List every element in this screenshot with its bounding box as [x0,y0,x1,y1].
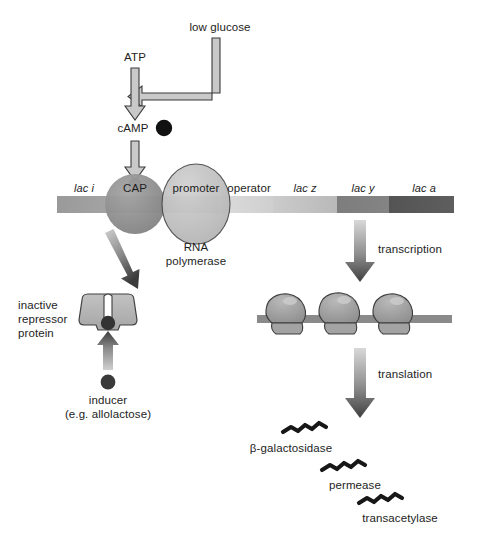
ribosome [266,294,306,334]
low-glucose-arrow [128,38,220,107]
dna-segment-lac-y [337,196,389,213]
squiggle-beta-galactosidase [283,423,326,432]
rna-polymerase-label-line1: RNA [184,241,209,255]
operator-label: operator [227,182,271,196]
repressor-label-line3: protein [18,327,54,341]
inducer-label-line2: (e.g. allolactose) [65,408,151,422]
dna-segment-lac-z [273,196,337,213]
translation-arrow [345,348,375,418]
cap-label: CAP [123,182,147,196]
gene-lac-z-label: lac z [293,182,316,196]
diagram-canvas [0,0,480,536]
dna-segment-lac-a [389,196,454,213]
atp-label: ATP [124,51,146,65]
gene-lac-i-label: lac i [74,182,94,196]
translation-label: translation [378,368,432,382]
repressor-label-line1: inactive [18,299,58,313]
inducer-label-line1: inducer [89,394,127,408]
repressor-label-line2: repressor [18,313,67,327]
gene-lac-y-label: lac y [351,182,374,196]
camp-label: cAMP [117,122,148,136]
product-transacetylase-label: transacetylase [362,512,438,526]
ribosome [373,294,413,334]
gene-lac-a-label: lac a [412,182,436,196]
mrna-with-ribosomes [257,293,452,334]
product-beta-galactosidase-label: β-galactosidase [250,442,332,456]
rna-polymerase-label-line2: polymerase [166,255,226,269]
rna-polymerase-ellipse [162,164,230,244]
repressor-inactivation-arrow [105,229,140,289]
low-glucose-label: low glucose [189,21,250,35]
squiggle-permease [322,461,365,470]
inducer-binding-arrow [97,331,119,370]
promoter-label: promoter [173,182,220,196]
transcription-label: transcription [378,243,442,257]
transcription-arrow [345,220,375,282]
lac-operon-diagram: low glucose ATP cAMP lac i CAP promoter … [0,0,480,536]
product-permease-label: permease [329,479,381,493]
squiggle-transacetylase [359,494,402,503]
inducer-dot [101,375,116,390]
ribosome [319,293,360,334]
dna-segment-lac-i [57,196,112,213]
camp-molecule-dot [156,120,172,136]
inactive-repressor-shape [79,294,137,330]
